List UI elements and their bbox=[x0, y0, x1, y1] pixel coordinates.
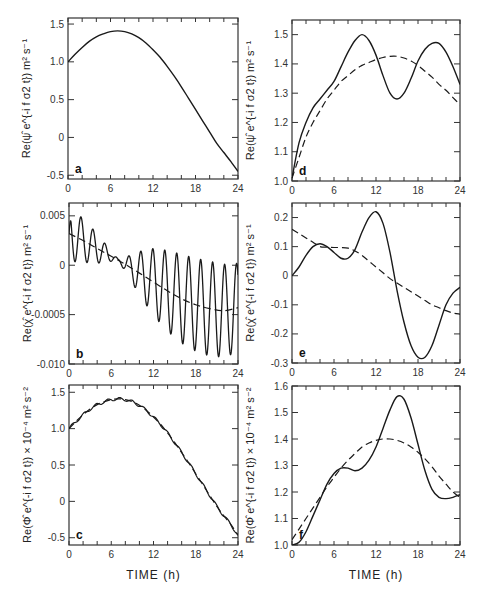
y-tick-label: 1.3 bbox=[274, 88, 288, 99]
y-tick-label: 0 bbox=[282, 270, 288, 281]
series-dashed bbox=[292, 56, 460, 178]
y-axis-label: Re(ψ̂ e^{-i f σ2 t}) m² s⁻¹ bbox=[20, 39, 32, 159]
x-tick-label: 24 bbox=[454, 185, 466, 196]
y-tick-label: 1.4 bbox=[274, 58, 288, 69]
x-tick-label: 18 bbox=[412, 367, 424, 378]
panel-label: e bbox=[299, 346, 306, 360]
panel-label: d bbox=[299, 164, 306, 178]
y-tick-label: -0.3 bbox=[271, 358, 289, 369]
series-dashed bbox=[69, 234, 238, 311]
series-dashed bbox=[69, 399, 238, 536]
figure-canvas: 06121824-0.500.51.01.5Re(ψ̂ e^{-i f σ2 t… bbox=[0, 0, 484, 589]
x-tick-label: 0 bbox=[289, 549, 295, 560]
x-axis-label: TIME (h) bbox=[349, 568, 404, 582]
y-tick-label: 1.3 bbox=[274, 460, 288, 471]
y-tick-label: -0.1 bbox=[271, 299, 289, 310]
y-tick-label: 1.0 bbox=[51, 423, 65, 434]
panel-label: c bbox=[76, 528, 83, 542]
y-tick-label: 1.2 bbox=[274, 487, 288, 498]
y-tick-label: 0 bbox=[59, 260, 65, 271]
series-solid bbox=[292, 212, 460, 359]
x-tick-label: 24 bbox=[454, 367, 466, 378]
x-tick-label: 24 bbox=[232, 183, 244, 194]
y-tick-label: -0.5 bbox=[47, 170, 65, 181]
series-solid bbox=[68, 31, 238, 172]
panel-a: 06121824-0.500.51.01.5Re(ψ̂ e^{-i f σ2 t… bbox=[20, 18, 244, 194]
x-tick-label: 6 bbox=[108, 368, 114, 379]
y-tick-label: 1.5 bbox=[50, 19, 64, 30]
y-tick-label: 1.4 bbox=[274, 434, 288, 445]
x-tick-label: 18 bbox=[412, 549, 424, 560]
series-solid bbox=[69, 398, 238, 535]
panel-c: 06121824-0.500.51.01.5Re(Φ̂ e^{-i f σ2 t… bbox=[21, 385, 244, 582]
y-tick-label: -0.2 bbox=[271, 328, 289, 339]
x-tick-label: 12 bbox=[147, 183, 159, 194]
x-tick-label: 18 bbox=[190, 368, 202, 379]
panel-label: b bbox=[76, 347, 83, 361]
y-axis-label: Re(Φ̂ e^{-i f σ2 t}) × 10⁻⁴ m² s⁻² bbox=[244, 387, 256, 543]
y-tick-label: 0.005 bbox=[40, 210, 65, 221]
series-dashed bbox=[292, 229, 460, 314]
y-tick-label: 1.0 bbox=[274, 176, 288, 187]
y-tick-label: 1.6 bbox=[274, 381, 288, 392]
plot-frame bbox=[69, 385, 238, 545]
y-axis-label: Re(ψ̂ e^{-i f σ2 t}) m² s⁻¹ bbox=[244, 41, 256, 161]
x-tick-label: 24 bbox=[454, 549, 466, 560]
x-tick-label: 0 bbox=[289, 367, 295, 378]
panel-d: 061218241.01.11.21.31.41.5Re(ψ̂ e^{-i f … bbox=[244, 20, 466, 196]
y-tick-label: 0.5 bbox=[50, 94, 64, 105]
series-solid bbox=[292, 35, 460, 178]
y-tick-label: -0.0005 bbox=[31, 309, 65, 320]
x-tick-label: 24 bbox=[232, 549, 244, 560]
panel-b: 06121824-0.010-0.000500.005Re(χ̂ e^{-i f… bbox=[21, 203, 244, 379]
y-tick-label: 1.1 bbox=[274, 146, 288, 157]
panel-f: 061218241.01.11.21.31.41.51.6Re(Φ̂ e^{-i… bbox=[244, 381, 466, 583]
x-tick-label: 6 bbox=[331, 549, 337, 560]
y-axis-label: Re(χ̂ e^{-i f σ2 t}) m² s⁻¹ bbox=[21, 225, 33, 343]
y-tick-label: 0.2 bbox=[274, 212, 288, 223]
series-solid bbox=[69, 217, 238, 357]
x-tick-label: 0 bbox=[66, 549, 72, 560]
y-tick-label: 1.5 bbox=[274, 407, 288, 418]
x-tick-label: 12 bbox=[148, 549, 160, 560]
y-tick-label: 1.5 bbox=[51, 387, 65, 398]
x-tick-label: 12 bbox=[370, 185, 382, 196]
x-tick-label: 6 bbox=[331, 185, 337, 196]
y-axis-label: Re(Φ̂ e^{-i f σ2 t}) × 10⁻⁴ m² s⁻² bbox=[21, 387, 33, 543]
y-tick-label: 0.5 bbox=[51, 460, 65, 471]
y-tick-label: 0 bbox=[58, 132, 64, 143]
y-tick-label: 1.2 bbox=[274, 117, 288, 128]
y-tick-label: 1.0 bbox=[50, 56, 64, 67]
x-tick-label: 6 bbox=[108, 183, 114, 194]
x-tick-label: 12 bbox=[370, 367, 382, 378]
x-tick-label: 0 bbox=[66, 368, 72, 379]
y-tick-label: 0 bbox=[59, 496, 65, 507]
x-tick-label: 6 bbox=[331, 367, 337, 378]
series-dashed bbox=[292, 439, 460, 540]
y-tick-label: -0.5 bbox=[48, 532, 66, 543]
plot-frame bbox=[292, 386, 460, 545]
y-axis-label: Re(χ̂ e^{-i f σ2 t}) m² s⁻¹ bbox=[244, 224, 256, 342]
x-tick-label: 18 bbox=[412, 185, 424, 196]
x-tick-label: 18 bbox=[190, 183, 202, 194]
panel-e: 06121824-0.3-0.2-0.100.10.2Re(χ̂ e^{-i f… bbox=[244, 203, 466, 378]
y-tick-label: 1.5 bbox=[274, 29, 288, 40]
y-tick-label: 1.1 bbox=[274, 513, 288, 524]
panel-label: a bbox=[75, 162, 82, 176]
y-tick-label: 1.0 bbox=[274, 540, 288, 551]
x-tick-label: 12 bbox=[370, 549, 382, 560]
x-tick-label: 12 bbox=[148, 368, 160, 379]
plot-frame bbox=[292, 20, 460, 181]
x-tick-label: 18 bbox=[190, 549, 202, 560]
x-tick-label: 24 bbox=[232, 368, 244, 379]
x-axis-label: TIME (h) bbox=[126, 568, 181, 582]
x-tick-label: 0 bbox=[289, 185, 295, 196]
plot-frame bbox=[69, 203, 238, 364]
x-tick-label: 6 bbox=[108, 549, 114, 560]
y-tick-label: 0.1 bbox=[274, 241, 288, 252]
x-tick-label: 0 bbox=[65, 183, 71, 194]
y-tick-label: -0.010 bbox=[37, 359, 66, 370]
plot-frame bbox=[68, 18, 238, 179]
